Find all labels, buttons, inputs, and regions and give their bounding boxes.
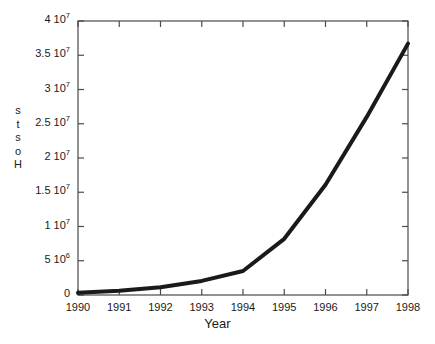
- plot-frame: [78, 21, 408, 295]
- y-tick-label: 1 107: [44, 219, 70, 231]
- y-tick-label: 0: [64, 287, 70, 299]
- x-axis-label: Year: [0, 316, 435, 331]
- x-tick-label: 1995: [264, 301, 304, 313]
- y-axis-label-char-0: s: [10, 104, 26, 118]
- x-tick-label: 1991: [99, 301, 139, 313]
- y-tick-label: 2.5 107: [35, 116, 70, 128]
- x-tick-label: 1997: [347, 301, 387, 313]
- y-axis-label: s t s o H: [10, 104, 26, 172]
- y-tick-label: 2 107: [44, 150, 70, 162]
- y-axis-label-char-3: o: [10, 145, 26, 159]
- chart-figure: s t s o H Year 05 1061 1071.5 1072 1072.…: [0, 0, 435, 344]
- x-tick-label: 1993: [182, 301, 222, 313]
- x-tick-label: 1992: [141, 301, 181, 313]
- x-tick-label: 1994: [223, 301, 263, 313]
- y-tick-label: 4 107: [44, 13, 70, 25]
- y-tick-label: 5 106: [44, 253, 70, 265]
- y-tick-label: 1.5 107: [35, 184, 70, 196]
- y-axis-label-char-2: s: [10, 131, 26, 145]
- y-tick-label: 3.5 107: [35, 47, 70, 59]
- x-tick-label: 1990: [58, 301, 98, 313]
- x-tick-label: 1998: [388, 301, 428, 313]
- y-axis-label-char-1: t: [10, 118, 26, 132]
- x-tick-label: 1996: [306, 301, 346, 313]
- y-axis-label-char-4: H: [10, 158, 26, 172]
- y-tick-label: 3 107: [44, 82, 70, 94]
